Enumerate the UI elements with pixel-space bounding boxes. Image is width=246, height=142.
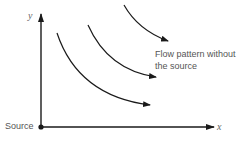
- streamline-3: [124, 5, 168, 41]
- x-axis-label: x: [217, 121, 221, 132]
- flow-diagram: [0, 0, 246, 142]
- source-label: Source: [5, 121, 34, 132]
- streamline-1: [57, 33, 150, 105]
- source-point: [38, 124, 43, 129]
- streamline-2: [88, 25, 156, 77]
- y-axis-label: y: [28, 10, 32, 21]
- annotation-line-2: the source: [155, 61, 197, 72]
- annotation-line-1: Flow pattern without: [155, 49, 236, 60]
